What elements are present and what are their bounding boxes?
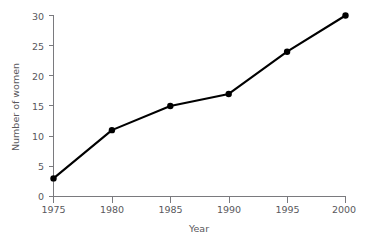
data-point — [226, 91, 232, 97]
data-point — [284, 49, 290, 55]
y-tick-label-30: 30 — [32, 11, 44, 22]
x-tick-label-1990: 1990 — [217, 204, 241, 215]
y-tick-label-10: 10 — [32, 131, 44, 142]
data-point — [342, 12, 348, 18]
y-axis-ticks — [49, 16, 54, 197]
series-markers — [50, 12, 348, 181]
x-axis-title: Year — [188, 223, 209, 234]
x-tick-label-2000: 2000 — [332, 204, 356, 215]
data-point — [167, 103, 173, 109]
x-axis-tick-labels: 1975 1980 1985 1990 1995 2000 — [41, 204, 356, 215]
series-line — [54, 16, 346, 179]
line-chart: 30 25 20 15 10 5 0 1975 1980 1985 1990 1… — [0, 0, 367, 240]
y-axis-title: Number of women — [10, 63, 21, 151]
x-tick-label-1980: 1980 — [100, 204, 124, 215]
x-tick-label-1975: 1975 — [41, 204, 65, 215]
x-tick-label-1985: 1985 — [158, 204, 182, 215]
y-tick-label-15: 15 — [32, 101, 44, 112]
y-tick-label-0: 0 — [38, 191, 44, 202]
data-series-number-of-women — [50, 12, 348, 181]
data-point — [50, 175, 56, 181]
y-tick-label-25: 25 — [32, 41, 44, 52]
y-axis-tick-labels: 30 25 20 15 10 5 0 — [32, 11, 44, 203]
y-tick-label-20: 20 — [32, 71, 44, 82]
data-point — [109, 127, 115, 133]
x-axis-ticks — [54, 197, 346, 203]
x-tick-label-1995: 1995 — [275, 204, 299, 215]
chart-canvas: 30 25 20 15 10 5 0 1975 1980 1985 1990 1… — [0, 0, 367, 240]
y-tick-label-5: 5 — [38, 161, 44, 172]
